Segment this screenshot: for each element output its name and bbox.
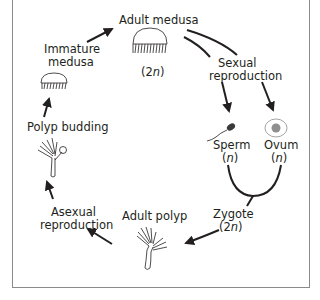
arrow-immature-to-adult-medusa [87, 29, 112, 42]
ovum-icon [265, 119, 287, 137]
arrow-zygote-to-polyp [186, 230, 219, 243]
label-adult-polyp: Adult polyp [122, 209, 187, 223]
label-immature-medusa-2: medusa [48, 55, 94, 69]
arrow-to-sperm [222, 82, 229, 111]
label-ovum: Ovum [264, 138, 298, 152]
label-ovum-ploidy: (n) [271, 151, 287, 165]
arrow-medusa-to-sexual-2 [184, 37, 210, 57]
label-immature-medusa-1: Immature [44, 42, 100, 56]
label-adult-medusa-ploidy: (2n) [141, 65, 165, 79]
budding-polyp-icon [38, 138, 67, 177]
label-adult-medusa: Adult medusa [119, 13, 199, 27]
label-zygote: Zygote [213, 207, 254, 221]
immature-medusa-icon [41, 73, 67, 89]
arrow-to-ovum [262, 82, 273, 110]
fusion-curve [228, 165, 281, 196]
label-zygote-ploidy: (2n) [219, 220, 243, 234]
label-sperm: Sperm [213, 138, 250, 152]
label-sexual-reproduction-2: reproduction [209, 69, 282, 83]
label-asexual-reproduction-2: reproduction [40, 218, 113, 232]
arrow-asexual-to-budding [47, 182, 53, 199]
label-polyp-budding: Polyp budding [27, 120, 109, 134]
fusion-stem [247, 196, 253, 206]
adult-medusa-icon [133, 28, 167, 53]
label-sperm-ploidy: (n) [222, 151, 238, 165]
label-sexual-reproduction-1: Sexual [218, 56, 257, 70]
adult-polyp-icon [137, 227, 167, 270]
arrow-budding-to-immature [44, 99, 49, 117]
label-asexual-reproduction-1: Asexual [51, 205, 96, 219]
